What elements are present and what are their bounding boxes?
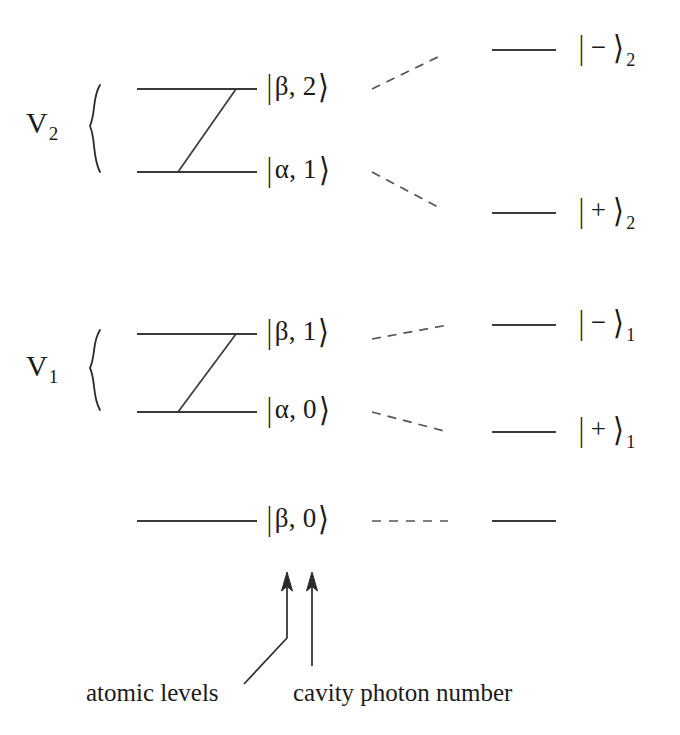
ket-angle-alpha0: ⟩ [319, 394, 330, 427]
ket-label-plus1: |+⟩1 [578, 414, 636, 451]
ket-sub-minus1: 1 [626, 325, 635, 345]
ket-sub-minus2: 2 [626, 50, 635, 70]
ket-bar-plus2: | [579, 195, 584, 228]
manifold-label-v1: V1 [26, 351, 58, 386]
ket-bar-beta0: | [267, 503, 272, 536]
correlation-dash-beta1-to-minus1 [372, 325, 448, 339]
manifold-label-v2: V2 [26, 108, 58, 143]
ket-bar-beta1: | [267, 316, 272, 349]
coupling-line-v2 [178, 89, 236, 172]
brace-v1 [90, 330, 100, 410]
manifold-label-v2-sub: 2 [49, 123, 59, 144]
ket-sign-minus1: − [587, 309, 611, 336]
ket-label-beta0: |β, 0⟩ [266, 503, 330, 536]
ket-bar-alpha0: | [267, 394, 272, 427]
ket-state-beta0: β, 0 [275, 503, 317, 533]
ket-angle-beta0: ⟩ [318, 503, 329, 536]
ket-bar-beta2: | [267, 71, 272, 104]
brace-v2 [90, 85, 100, 172]
caption-atomic-levels: atomic levels [86, 680, 219, 705]
ket-bar-minus1: | [579, 307, 584, 340]
manifold-label-v1-main: V [26, 349, 48, 382]
ket-state-beta2: β, 2 [275, 71, 317, 101]
caption-cavity-photon-number: cavity photon number [293, 680, 512, 705]
ket-label-plus2: |+⟩2 [578, 195, 636, 232]
ket-bar-minus2: | [579, 32, 584, 65]
manifold-label-v2-main: V [26, 106, 48, 139]
ket-bar-plus1: | [579, 414, 584, 447]
ket-angle-beta1: ⟩ [318, 316, 329, 349]
ket-angle-plus2: ⟩ [613, 195, 624, 228]
ket-label-alpha1: |α, 1⟩ [266, 154, 331, 187]
ket-sign-minus2: − [587, 34, 611, 61]
correlation-dash-beta2-to-minus2 [372, 56, 440, 89]
ket-state-alpha0: α, 0 [275, 394, 317, 424]
ket-sub-plus1: 1 [626, 432, 635, 452]
diagram-canvas [0, 0, 680, 735]
ket-state-beta1: β, 1 [275, 316, 317, 346]
ket-angle-alpha1: ⟩ [319, 154, 330, 187]
ket-label-beta2: |β, 2⟩ [266, 71, 330, 104]
ket-angle-beta2: ⟩ [318, 71, 329, 104]
coupling-line-v1 [178, 334, 236, 412]
ket-angle-minus1: ⟩ [613, 307, 624, 340]
ket-label-minus2: |−⟩2 [578, 32, 636, 69]
correlation-dash-alpha1-to-plus2 [372, 172, 440, 208]
ket-label-minus1: |−⟩1 [578, 307, 636, 344]
atomic-levels-arrow-shaft [244, 586, 287, 684]
manifold-label-v1-sub: 1 [49, 366, 59, 387]
correlation-dash-alpha0-to-plus1 [372, 412, 448, 432]
ket-sign-plus2: + [587, 197, 611, 224]
ket-sign-plus1: + [587, 416, 611, 443]
ket-state-alpha1: α, 1 [275, 154, 317, 184]
ket-angle-minus2: ⟩ [613, 32, 624, 65]
ket-angle-plus1: ⟩ [613, 414, 624, 447]
energy-level-diagram: V2 V1 |β, 2⟩ |α, 1⟩ |β, 1⟩ |α, 0⟩ |β, 0⟩… [0, 0, 680, 735]
ket-sub-plus2: 2 [626, 213, 635, 233]
ket-label-beta1: |β, 1⟩ [266, 316, 330, 349]
ket-bar-alpha1: | [267, 154, 272, 187]
ket-label-alpha0: |α, 0⟩ [266, 394, 331, 427]
